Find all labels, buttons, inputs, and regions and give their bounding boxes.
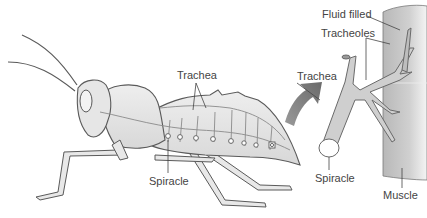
antenna-icon [8, 35, 77, 91]
label-spiracle-detail: Spiracle [315, 173, 355, 184]
label-trachea-detail: Trachea [297, 71, 337, 82]
detail-spiracle-icon [319, 139, 339, 157]
compound-eye-icon [80, 90, 92, 112]
label-trachea-body: Trachea [177, 70, 217, 81]
muscle-block [383, 5, 427, 180]
magnify-arrow-icon [285, 82, 322, 126]
insect-respiratory-diagram: Trachea Spiracle Fluid filled Tracheoles… [0, 0, 427, 218]
label-muscle: Muscle [383, 190, 418, 201]
label-tracheoles: Tracheoles [321, 28, 375, 39]
label-spiracle-body: Spiracle [149, 176, 189, 187]
label-fluid-filled: Fluid filled [322, 9, 372, 20]
